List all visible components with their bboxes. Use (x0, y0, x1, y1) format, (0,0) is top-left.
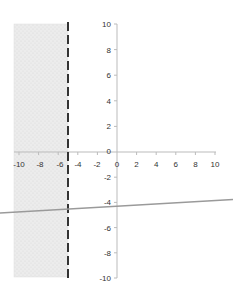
svg-text:4: 4 (107, 97, 112, 106)
chart-canvas: 10 8 6 4 2 0 -2 -4 -6 -8 -10 -10 -8 -6 -… (0, 0, 233, 301)
svg-text:8: 8 (193, 160, 198, 169)
svg-text:6: 6 (174, 160, 179, 169)
svg-text:-10: -10 (13, 160, 25, 169)
svg-text:-8: -8 (36, 160, 44, 169)
svg-text:4: 4 (154, 160, 159, 169)
svg-text:-10: -10 (99, 274, 111, 283)
svg-text:0: 0 (115, 160, 120, 169)
svg-text:2: 2 (107, 122, 112, 131)
svg-text:10: 10 (102, 20, 111, 29)
svg-text:0: 0 (107, 147, 112, 156)
svg-text:-6: -6 (104, 224, 112, 233)
svg-text:-8: -8 (104, 249, 112, 258)
svg-text:10: 10 (211, 160, 220, 169)
shaded-region (14, 24, 68, 277)
svg-text:-2: -2 (104, 173, 112, 182)
svg-text:8: 8 (107, 46, 112, 55)
svg-text:-2: -2 (93, 160, 101, 169)
svg-text:-6: -6 (56, 160, 64, 169)
svg-text:2: 2 (134, 160, 139, 169)
svg-text:6: 6 (107, 71, 112, 80)
svg-text:-4: -4 (74, 160, 82, 169)
